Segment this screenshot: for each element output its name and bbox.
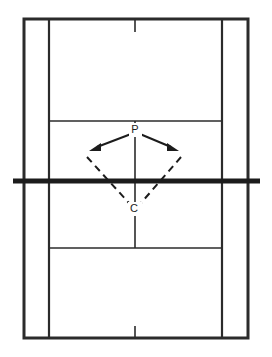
shot-arrow-right (140, 134, 171, 147)
marker-label-c: C (130, 202, 138, 214)
shot-arrow-left (97, 134, 131, 147)
badminton-court-diagram: P C (0, 0, 272, 357)
court-svg-canvas: P C (0, 0, 272, 357)
shot-arrow-right-head (167, 143, 179, 151)
marker-label-p: P (131, 123, 138, 135)
shot-arrow-left-head (89, 143, 101, 151)
